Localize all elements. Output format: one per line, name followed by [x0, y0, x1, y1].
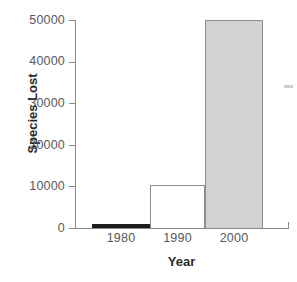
y-axis-title: Species Lost: [25, 54, 40, 174]
x-tick-label-2000: 2000: [205, 231, 263, 245]
x-tick-label-1990: 1990: [150, 231, 205, 245]
x-axis-end-tick: [288, 222, 289, 229]
y-tick-label-50000: 50000: [29, 13, 65, 27]
bar-chart-figure: Species Lost 50000 40000 30000 20000 100…: [0, 0, 297, 282]
x-axis-title: Year: [75, 254, 288, 269]
y-tick-label-10000: 10000: [29, 179, 65, 193]
crop-edge-artifact: [284, 85, 293, 88]
x-axis-spine: [75, 228, 288, 229]
bar-2000: [205, 20, 263, 229]
y-tick-label-0: 0: [58, 221, 65, 235]
y-tick-label-20000: 20000: [29, 138, 65, 152]
y-tick-label-40000: 40000: [29, 54, 65, 68]
bar-1990: [150, 185, 205, 229]
y-tick-label-30000: 30000: [29, 96, 65, 110]
y-axis-spine: [75, 20, 76, 229]
x-tick-label-1980: 1980: [92, 231, 150, 245]
